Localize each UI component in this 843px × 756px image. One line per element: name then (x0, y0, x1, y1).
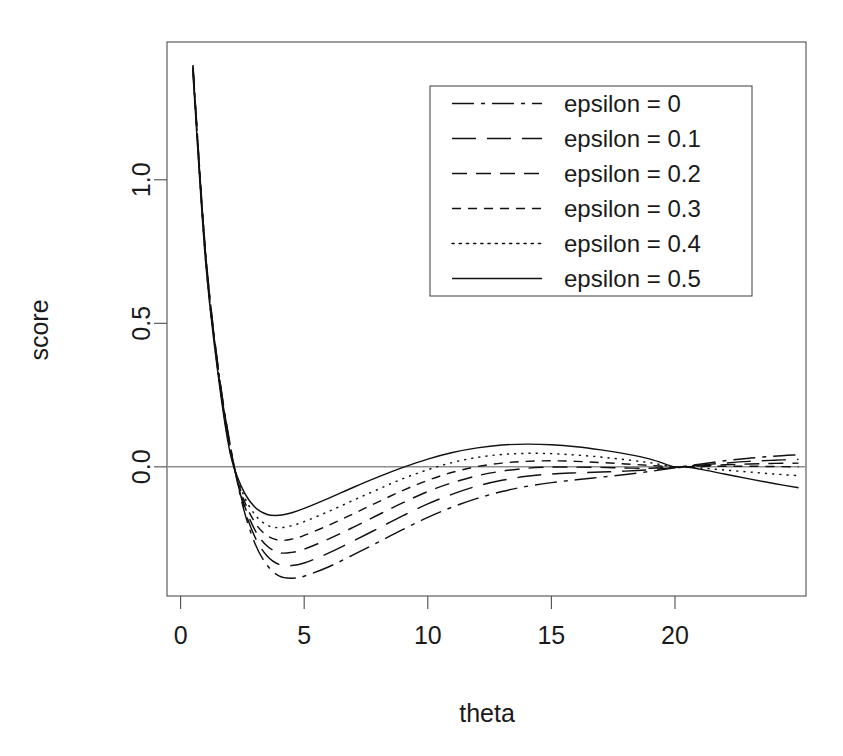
legend-label-0: epsilon = 0 (564, 90, 681, 117)
x-axis-title: theta (459, 699, 515, 727)
x-axis-ticks (181, 596, 675, 609)
x-tick-label-15: 15 (537, 621, 565, 649)
y-axis-tick-labels: 0.00.51.0 (127, 162, 155, 484)
x-tick-label-5: 5 (297, 621, 311, 649)
x-axis-tick-labels: 05101520 (174, 621, 689, 649)
legend-label-3: epsilon = 0.3 (564, 195, 701, 222)
chart-container: 05101520 0.00.51.0 theta score epsilon =… (0, 0, 843, 756)
y-tick-label-1: 1.0 (127, 162, 155, 197)
x-tick-label-10: 10 (414, 621, 442, 649)
x-tick-label-0: 0 (174, 621, 188, 649)
legend-label-4: epsilon = 0.4 (564, 230, 701, 257)
y-tick-label-0.5: 0.5 (127, 306, 155, 341)
score-vs-theta-line-chart: 05101520 0.00.51.0 theta score epsilon =… (0, 0, 843, 756)
x-tick-label-20: 20 (661, 621, 689, 649)
y-axis-ticks (154, 180, 167, 467)
legend-label-5: epsilon = 0.5 (564, 265, 701, 292)
legend-label-2: epsilon = 0.2 (564, 160, 701, 187)
y-axis-title: score (25, 299, 53, 360)
legend-label-1: epsilon = 0.1 (564, 125, 701, 152)
y-tick-label-0: 0.0 (127, 449, 155, 484)
chart-legend: epsilon = 0epsilon = 0.1epsilon = 0.2eps… (430, 86, 752, 296)
